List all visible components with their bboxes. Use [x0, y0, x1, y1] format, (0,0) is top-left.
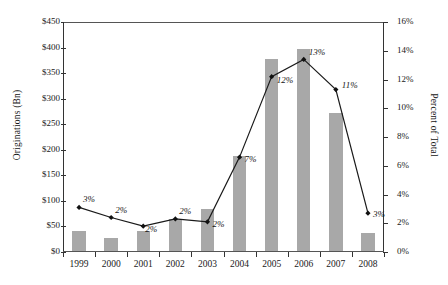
- y-axis-right-tick-label: 10%: [397, 103, 414, 112]
- y-axis-right-tick-label: 8%: [397, 132, 409, 141]
- y-axis-left-tick-label: $350: [42, 68, 60, 77]
- y-axis-right-tick-label: 14%: [397, 46, 414, 55]
- percent-line-marker: [109, 215, 114, 220]
- data-point-label: 2%: [145, 224, 157, 234]
- y-axis-left-tick-label: $200: [42, 145, 60, 154]
- percent-line-marker: [365, 211, 370, 216]
- percent-line: [79, 59, 368, 226]
- x-axis-tick-label: 2008: [348, 259, 388, 269]
- y-axis-left-tick-label: $50: [47, 221, 61, 230]
- x-axis-tick-mark: [159, 252, 160, 257]
- x-axis-tick-mark: [256, 252, 257, 257]
- y-axis-left-tick-label: $150: [42, 170, 60, 179]
- percent-line-marker: [205, 219, 210, 224]
- y-axis-left-tick-label: $0: [51, 247, 60, 256]
- x-axis-tick-mark: [320, 252, 321, 257]
- x-axis-tick-mark: [384, 252, 385, 257]
- x-axis-tick-mark: [127, 252, 128, 257]
- y-axis-right-tick-label: 12%: [397, 75, 414, 84]
- percent-line-marker: [269, 74, 274, 79]
- x-axis-tick-mark: [352, 252, 353, 257]
- data-point-label: 7%: [245, 154, 257, 164]
- data-point-label: 2%: [179, 206, 191, 216]
- line-series: [63, 22, 384, 252]
- data-point-label: 2%: [212, 219, 224, 229]
- x-axis-tick-mark: [63, 252, 64, 257]
- data-point-label: 11%: [342, 80, 358, 90]
- y-axis-left-tick-label: $300: [42, 94, 60, 103]
- x-axis-tick-mark: [224, 252, 225, 257]
- y-axis-right-title: Percent of Total: [429, 75, 439, 175]
- y-axis-right-tick-label: 2%: [397, 218, 409, 227]
- y-axis-right-ticks: 0%2%4%6%8%10%12%14%16%: [388, 0, 430, 285]
- x-axis-tick-mark: [288, 252, 289, 257]
- data-point-label: 3%: [83, 194, 95, 204]
- percent-line-marker: [76, 205, 81, 210]
- data-point-label: 2%: [115, 205, 127, 215]
- y-axis-left-tick-label: $100: [42, 196, 60, 205]
- y-axis-right-tick-label: 0%: [397, 247, 409, 256]
- y-axis-right-tick-label: 4%: [397, 190, 409, 199]
- data-point-label: 3%: [373, 209, 385, 219]
- data-point-label: 13%: [309, 47, 326, 57]
- percent-line-markers: [76, 57, 370, 229]
- x-axis-tick-mark: [95, 252, 96, 257]
- y-axis-left-tick-label: $250: [42, 119, 60, 128]
- y-axis-right-tick-label: 16%: [397, 17, 414, 26]
- percent-line-marker: [237, 155, 242, 160]
- data-point-label: 12%: [277, 75, 294, 85]
- y-axis-right-tick-label: 6%: [397, 161, 409, 170]
- x-axis-tick-mark: [191, 252, 192, 257]
- y-axis-left-tick-label: $400: [42, 43, 60, 52]
- percent-line-marker: [173, 216, 178, 221]
- y-axis-left-tick-label: $450: [42, 17, 60, 26]
- chart-figure: Originations (Bn) Percent of Total $0$50…: [0, 0, 448, 285]
- y-axis-left-ticks: $0$50$100$150$200$250$300$350$400$450: [18, 0, 60, 285]
